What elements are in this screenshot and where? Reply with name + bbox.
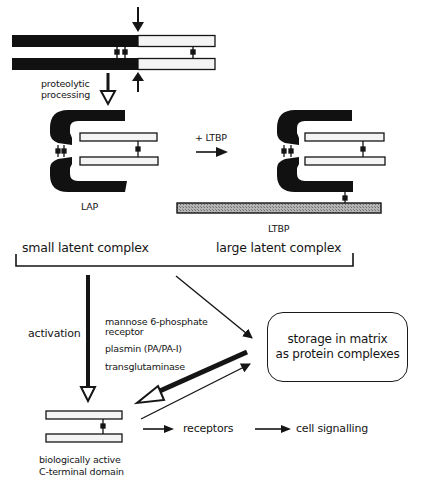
ltbp-bar [177,203,381,213]
storage-label-line1: storage in matrix [288,332,388,347]
processing-label: processing [41,90,90,100]
cleavage-arrow-bottom-icon [132,72,144,92]
to-signalling-arrow-icon [255,425,291,433]
to-receptors-arrow-icon [143,425,174,433]
small-latent-complex-label: small latent complex [22,242,149,255]
activator-plasmin-label: plasmin (PA/PA-I) [105,344,182,354]
receptors-label: receptors [183,423,233,434]
cleavage-arrow-top-icon [132,7,144,32]
proteolytic-label: proteolytic [41,79,90,89]
disulfide-bonds-icon [115,47,195,58]
to-storage-arrow-icon [176,276,252,338]
activation-label: activation [28,328,80,339]
small-latent-complex [50,110,158,192]
proteolytic-processing-arrow-icon [101,73,115,104]
release-arrow-icon [137,352,247,403]
large-latent-complex-label: large latent complex [216,242,341,255]
activator-m6p-receptor-label: receptor [105,327,143,337]
plus-ltbp-label: + LTBP [195,133,227,143]
storage-box: storage in matrix as protein complexes [267,312,408,382]
plus-ltbp-arrow-icon [196,147,228,157]
activator-transglutaminase-label: transglutaminase [105,362,185,372]
activation-arrow-icon [81,275,95,401]
active-domain-label-line1: biologically active [39,455,121,465]
ltbp-label: LTBP [268,224,289,234]
active-dimer [46,411,122,442]
large-latent-complex [177,110,385,213]
cell-signalling-label: cell signalling [296,423,368,434]
storage-label-line2: as protein complexes [275,347,399,362]
active-domain-label-line2: C-terminal domain [39,467,124,477]
lap-label: LAP [81,202,98,212]
tgf-beta-processing-diagram: proteolytic processing + LTBP LAP LTBP s… [0,0,427,489]
